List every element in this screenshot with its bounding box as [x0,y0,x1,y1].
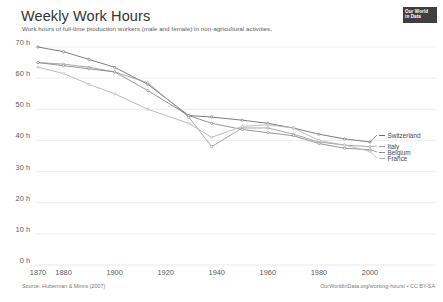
data-point[interactable] [188,114,190,116]
data-point[interactable] [343,138,345,140]
data-point[interactable] [211,116,213,118]
data-point[interactable] [62,72,64,74]
data-point[interactable] [114,71,116,73]
data-point[interactable] [343,144,345,146]
data-point[interactable] [88,68,90,70]
source-note: Source: Huberman & Minns (2007) [22,283,105,289]
data-point[interactable] [147,108,149,110]
series-line-switzerland[interactable] [38,47,370,142]
data-point[interactable] [188,122,190,124]
y-axis-tick-label: 70 h [2,38,30,47]
data-point[interactable] [147,90,149,92]
data-point[interactable] [62,51,64,53]
data-point[interactable] [292,127,294,129]
data-point[interactable] [211,146,213,148]
chart-root: Weekly Work Hours Work hours of full-tim… [0,0,443,302]
data-point[interactable] [343,147,345,149]
x-axis-tick-label: 1900 [99,268,131,277]
x-axis-tick-label: 1880 [48,268,80,277]
data-point[interactable] [211,122,213,124]
data-point[interactable] [318,133,320,135]
y-axis-tick-label: 40 h [2,131,30,140]
legend-item-france[interactable]: France [379,155,407,162]
data-point[interactable] [241,125,243,127]
legend-swatch-icon [379,146,385,147]
legend-connector [370,151,377,158]
data-point[interactable] [292,135,294,137]
data-point[interactable] [62,65,64,67]
data-point[interactable] [37,61,39,63]
data-point[interactable] [241,119,243,121]
x-axis-tick-label: 1940 [201,268,233,277]
legend-item-switzerland[interactable]: Switzerland [379,132,421,139]
legend-item-label: France [388,155,408,162]
data-point[interactable] [88,83,90,85]
legend-item-label: Switzerland [388,132,421,139]
line-chart-plot [0,0,443,302]
y-axis-tick-label: 30 h [2,163,30,172]
data-point[interactable] [114,93,116,95]
data-point[interactable] [267,124,269,126]
data-point[interactable] [318,139,320,141]
data-point[interactable] [267,127,269,129]
y-axis-tick-label: 50 h [2,100,30,109]
x-axis-tick-label: 1960 [252,268,284,277]
x-axis-tick-label: 1980 [303,268,335,277]
data-point[interactable] [37,46,39,48]
legend-swatch-icon [379,135,385,136]
data-point[interactable] [211,136,213,138]
legend-swatch-icon [379,152,385,153]
x-axis-tick-label: 1920 [150,268,182,277]
x-axis-tick-label: 2000 [354,268,386,277]
data-point[interactable] [241,128,243,130]
legend-swatch-icon [379,158,385,159]
data-point[interactable] [267,132,269,134]
y-axis-tick-label: 0 h [2,256,30,265]
y-axis-tick-label: 60 h [2,69,30,78]
y-axis-tick-label: 10 h [2,225,30,234]
legend-connector [370,135,377,142]
data-point[interactable] [318,142,320,144]
url-note[interactable]: OurWorldInData.org/working-hours/ • CC B… [320,283,435,289]
data-point[interactable] [88,58,90,60]
data-point[interactable] [147,82,149,84]
data-point[interactable] [37,66,39,68]
data-point[interactable] [114,66,116,68]
y-axis-tick-label: 20 h [2,194,30,203]
